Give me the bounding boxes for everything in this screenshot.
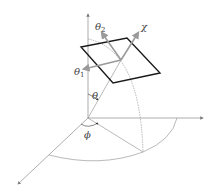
theta1-label: θ1 [74,66,85,79]
chi-label: χ [140,21,148,32]
theta2-label: θ2 [95,21,106,34]
y-axis [18,118,88,184]
theta-label: θ [92,90,98,101]
radial-line [88,60,121,118]
base-arc [49,118,177,161]
theta1-vector [84,60,121,69]
phi-label: ϕ [84,129,91,140]
phi-arc [81,123,98,126]
projection-line [88,118,143,152]
theta2-vector [102,33,121,60]
spherical-coordinate-diagram: θ2 χ θ1 θ ϕ [0,0,216,194]
